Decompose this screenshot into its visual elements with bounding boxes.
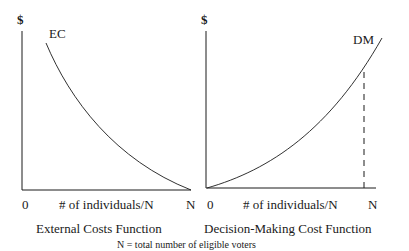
left-panel-title: External Costs Function bbox=[36, 221, 162, 236]
right-origin-label: 0 bbox=[207, 197, 214, 212]
right-x-axis-label: # of individuals/N bbox=[243, 197, 338, 212]
right-panel-title: Decision-Making Cost Function bbox=[204, 221, 372, 236]
decision-making-cost-curve bbox=[207, 38, 382, 188]
external-costs-panel: $ EC 0 # of individuals/N N External Cos… bbox=[17, 12, 196, 236]
ec-curve-label: EC bbox=[49, 26, 66, 41]
footnote: N = total number of eligible voters bbox=[117, 239, 256, 250]
left-x-axis-label: # of individuals/N bbox=[59, 197, 154, 212]
left-y-axis-label: $ bbox=[17, 12, 24, 27]
decision-making-panel: $ DM 0 # of individuals/N N Decision-Mak… bbox=[201, 12, 382, 236]
right-y-axis-label: $ bbox=[201, 12, 208, 27]
dm-curve-label: DM bbox=[353, 32, 374, 47]
right-x-end-label: N bbox=[368, 197, 378, 212]
external-cost-curve bbox=[46, 43, 191, 190]
left-x-end-label: N bbox=[186, 197, 196, 212]
left-origin-label: 0 bbox=[22, 197, 29, 212]
